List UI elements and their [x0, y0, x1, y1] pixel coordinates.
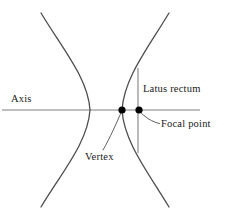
vertex-point-marker — [118, 106, 125, 113]
focal-point-leader-line — [140, 112, 160, 124]
latus-rectum-label: Latus rectum — [143, 83, 201, 95]
figure-canvas — [0, 0, 225, 217]
focal-point-marker — [135, 106, 142, 113]
focal-point-label: Focal point — [161, 118, 211, 130]
vertex-label: Vertex — [85, 151, 114, 163]
vertex-leader-line — [103, 112, 122, 151]
hyperbola-figure: Axis Latus rectum Focal point Vertex — [0, 0, 225, 217]
axis-label: Axis — [11, 93, 32, 105]
